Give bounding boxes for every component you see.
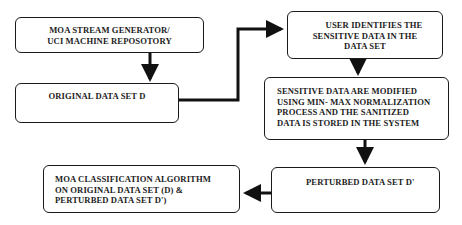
node-source: MOA STREAM GENERATOR/ UCI MACHINE REPOSO…	[15, 17, 204, 53]
node-modify-line-3: PROCESS AND THE SANITIZED	[277, 107, 448, 118]
node-original: ORIGINAL DATA SET D	[15, 83, 179, 123]
node-modify-line-1: SENSITIVE DATA ARE MODIFIED	[277, 86, 448, 97]
node-identify-line-1: USER IDENTIFIES THE	[288, 20, 442, 31]
node-modify: SENSITIVE DATA ARE MODIFIED USING MIN- M…	[264, 77, 449, 140]
node-modify-line-2: USING MIN- MAX NORMALIZATION	[277, 97, 448, 108]
node-identify-line-3: DATA SET	[288, 41, 442, 52]
node-classify: MOA CLASSIFICATION ALGORITHM ON ORIGINAL…	[43, 165, 240, 213]
node-classify-line-1: MOA CLASSIFICATION ALGORITHM	[55, 174, 239, 185]
node-classify-line-3: PERTURBED DATA SET D')	[55, 195, 239, 206]
node-source-line-1: MOA STREAM GENERATOR/	[16, 25, 203, 36]
node-modify-line-4: DATA IS STORED IN THE SYSTEM	[277, 118, 448, 129]
node-classify-line-2: ON ORIGINAL DATA SET (D) &	[55, 185, 239, 196]
node-perturbed-line-1: PERTURBED DATA SET D'	[306, 177, 439, 188]
node-perturbed: PERTURBED DATA SET D'	[271, 167, 440, 213]
node-identify-line-2: SENSITIVE DATA IN THE	[288, 31, 442, 42]
node-original-line-1: ORIGINAL DATA SET D	[16, 91, 178, 102]
node-source-line-2: UCI MACHINE REPOSOTORY	[16, 36, 203, 47]
node-identify: USER IDENTIFIES THE SENSITIVE DATA IN TH…	[287, 11, 443, 59]
